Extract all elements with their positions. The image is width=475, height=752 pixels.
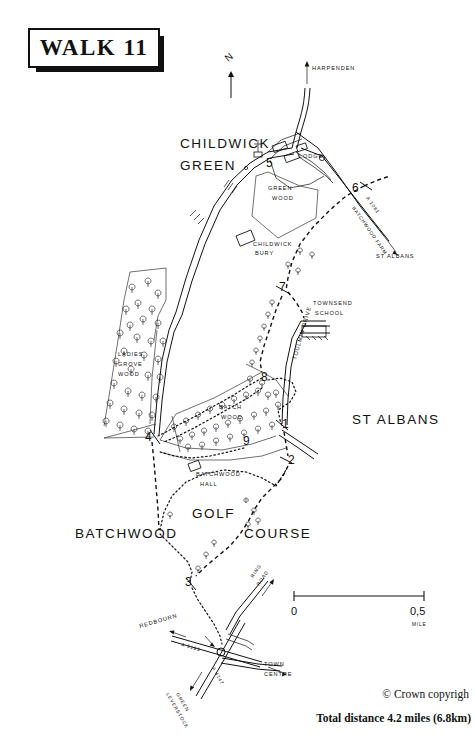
label-childwick-green-line1: CHILDWICK bbox=[180, 136, 270, 151]
label-batch-wood-line2: WOOD bbox=[221, 414, 243, 420]
label-ladies-grove-line2: GROVE bbox=[118, 361, 143, 367]
waypoint-numbers: 1 2 3 4 5 6 7 8 9 bbox=[145, 156, 359, 589]
roundabout-symbol bbox=[217, 648, 225, 656]
title-plate: WALK 11 bbox=[28, 28, 160, 68]
label-road-a4147: A 4147 bbox=[211, 666, 225, 686]
crossroad-arrow-head bbox=[210, 642, 215, 647]
waypoint-1: 1 bbox=[282, 417, 289, 431]
label-lodge: LODGE bbox=[299, 153, 323, 159]
label-course: COURSE bbox=[244, 526, 311, 541]
waypoint-2: 2 bbox=[288, 453, 295, 467]
label-st-albans-area: ST ALBANS bbox=[352, 412, 440, 427]
label-golf: GOLF bbox=[192, 506, 235, 521]
scale-end-label: 0,5 bbox=[410, 605, 425, 617]
label-childwick-bury-line1: CHILDWICK bbox=[253, 241, 293, 247]
label-town-centre-line1: TOWN bbox=[264, 661, 285, 667]
harpenden-arrow-head bbox=[305, 61, 310, 67]
label-batchwood-hall-line2: HALL bbox=[200, 481, 218, 487]
label-ladies-grove-line1: LADIES bbox=[118, 351, 143, 357]
compass-arrow-head bbox=[228, 71, 234, 77]
compass-north-label: N bbox=[222, 50, 235, 64]
label-green-wood-line2: WOOD bbox=[272, 195, 294, 201]
label-childwick-bury-line2: BURY bbox=[255, 250, 274, 256]
scale-start-label: 0 bbox=[291, 605, 297, 617]
map-canvas: N bbox=[0, 0, 475, 752]
redbourn-arrow-head bbox=[169, 631, 174, 635]
waypoint-7: 7 bbox=[279, 280, 286, 294]
label-townsend-school-line2: SCHOOL bbox=[315, 310, 344, 316]
label-redbourn: REDBOURN bbox=[139, 612, 178, 629]
copyright-notice: © Crown copyrigh bbox=[382, 688, 469, 700]
label-batchwood-farm: BATCHWOOD FARM bbox=[351, 206, 388, 256]
compass-rose: N bbox=[222, 50, 235, 98]
waypoint-6: 6 bbox=[352, 181, 359, 195]
waypoint-5: 5 bbox=[266, 156, 273, 170]
walk-map: WALK 11 N bbox=[0, 0, 475, 752]
label-st-albans-direction: ST ALBANS bbox=[376, 253, 414, 259]
label-childwick-green-line2: GREEN bbox=[180, 158, 236, 173]
waypoint-8: 8 bbox=[261, 370, 268, 384]
waypoint-9: 9 bbox=[243, 434, 250, 448]
page-title: WALK 11 bbox=[40, 35, 148, 61]
buildings bbox=[188, 140, 326, 472]
scale-bar: 0 0,5 MILE bbox=[291, 591, 426, 627]
label-green-wood-line1: GREEN bbox=[268, 185, 292, 191]
label-batch-wood-line1: BATCH bbox=[219, 404, 242, 410]
label-harpenden: HARPENDEN bbox=[312, 65, 355, 71]
label-townsend-school-line1: TOWNSEND bbox=[313, 300, 353, 306]
leverstock-arrow-head bbox=[190, 685, 194, 691]
label-batchwood: BATCHWOOD bbox=[75, 526, 178, 541]
label-ladies-grove-line3: WOOD bbox=[118, 371, 140, 377]
label-town-centre-line2: CENTRE bbox=[264, 671, 292, 677]
total-distance: Total distance 4.2 miles (6.8km) bbox=[316, 712, 471, 724]
ring-road-arrow-head bbox=[269, 579, 274, 585]
scale-unit-label: MILE bbox=[412, 622, 426, 627]
building-batchwood-hall bbox=[188, 460, 201, 471]
label-batchwood-hall-line1: BATCHWOOD bbox=[196, 471, 241, 477]
waypoint-3: 3 bbox=[185, 575, 192, 589]
label-road-a1081: A 1081 bbox=[365, 196, 380, 215]
